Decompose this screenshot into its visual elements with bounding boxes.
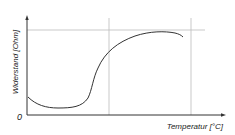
resistance-curve: [28, 32, 183, 108]
resistance-temperature-chart: 0 Temperatur [°C] Widerstand [Ohm]: [0, 0, 235, 135]
origin-label: 0: [17, 112, 22, 122]
x-axis-label: Temperatur [°C]: [167, 122, 224, 131]
y-axis-arrow-icon: [25, 15, 28, 20]
x-axis-arrow-icon: [221, 113, 226, 116]
y-axis-label: Widerstand [Ohm]: [11, 29, 20, 94]
